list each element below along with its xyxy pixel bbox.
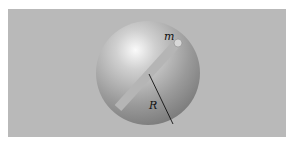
mass-label: m bbox=[164, 30, 174, 43]
particle-mass bbox=[174, 39, 182, 47]
sphere-diagram: m R bbox=[0, 0, 294, 143]
radius-label: R bbox=[148, 99, 157, 112]
